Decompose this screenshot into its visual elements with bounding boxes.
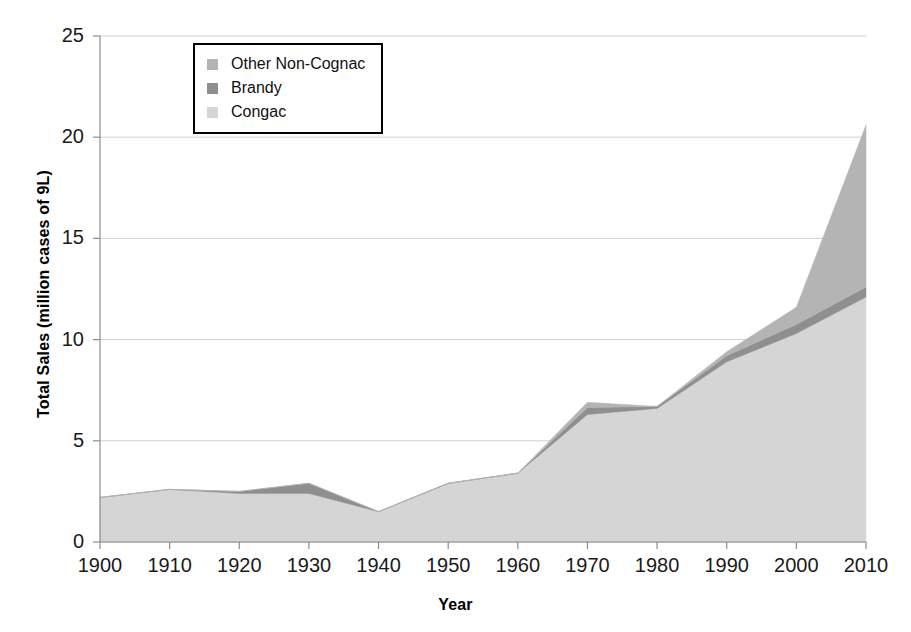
y-tick-label-25: 25: [24, 24, 84, 47]
y-tick-label-5: 5: [24, 429, 84, 452]
y-tick-label-10: 10: [24, 328, 84, 351]
y-tick-label-20: 20: [24, 125, 84, 148]
chart-container: Total Sales (million cases of 9L) Year 0…: [0, 0, 911, 632]
area-series-congac: [100, 297, 866, 542]
y-axis-title: Total Sales (million cases of 9L): [35, 44, 53, 544]
x-tick-label-2010: 2010: [821, 554, 911, 577]
y-tick-label-15: 15: [24, 226, 84, 249]
x-axis-title: Year: [0, 596, 911, 614]
y-tick-label-0: 0: [24, 530, 84, 553]
legend-swatch-icon: [207, 83, 218, 94]
legend-item-label: Other Non-Cognac: [231, 55, 365, 73]
area-series-group: [100, 125, 866, 542]
legend-item-label: Brandy: [231, 79, 282, 97]
legend-swatch-icon: [207, 59, 218, 70]
plot-area: [0, 0, 911, 632]
legend-item-brandy[interactable]: Brandy: [207, 76, 365, 100]
legend-item-congac[interactable]: Congac: [207, 100, 365, 124]
chart-legend: Other Non-CognacBrandyCongac: [193, 43, 383, 134]
legend-item-label: Congac: [231, 103, 286, 121]
legend-item-other-non-cognac[interactable]: Other Non-Cognac: [207, 52, 365, 76]
legend-swatch-icon: [207, 107, 218, 118]
